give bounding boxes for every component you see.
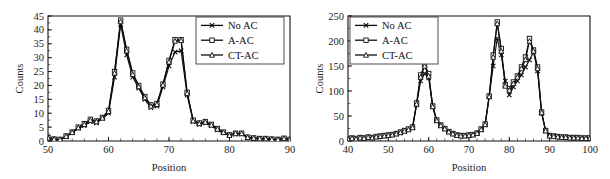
x-tick-label: 60 (423, 144, 434, 155)
y-tick-label: 0 (339, 136, 344, 147)
y-tick-label: 30 (34, 52, 45, 63)
x-tick-label: 70 (464, 144, 475, 155)
y-tick-label: 20 (34, 80, 45, 91)
x-tick-label: 80 (224, 144, 235, 155)
y-tick-label: 25 (34, 66, 45, 77)
y-tick-label: 35 (34, 38, 45, 49)
marker-square (210, 38, 214, 42)
y-tick-label: 250 (328, 11, 344, 22)
y-tick-label: 100 (328, 86, 344, 97)
x-tick-label: 90 (285, 144, 296, 155)
x-axis-title: Position (152, 162, 187, 173)
legend-label: A-AC (382, 35, 408, 46)
x-tick-label: 80 (504, 144, 515, 155)
legend-label: A-AC (228, 35, 254, 46)
x-tick-label: 90 (544, 144, 555, 155)
figure-container: 5060708090051015202530354045PositionCoun… (0, 0, 610, 179)
y-tick-label: 5 (39, 122, 44, 133)
x-tick-label: 50 (383, 144, 394, 155)
y-tick-label: 150 (328, 61, 344, 72)
chart-svg: 405060708090100050100150200250PositionCo… (305, 0, 610, 179)
chart-svg: 5060708090051015202530354045PositionCoun… (0, 0, 305, 179)
chart-panel-right: 405060708090100050100150200250PositionCo… (305, 0, 610, 179)
y-tick-label: 50 (334, 111, 345, 122)
x-tick-label: 70 (164, 144, 175, 155)
x-tick-label: 40 (343, 144, 354, 155)
y-tick-label: 200 (328, 36, 344, 47)
y-tick-label: 40 (34, 24, 45, 35)
legend-label: No AC (382, 20, 411, 31)
legend-label: CT-AC (382, 50, 413, 61)
x-axis-title: Position (452, 162, 487, 173)
y-tick-label: 10 (34, 108, 45, 119)
y-axis-title: Counts (14, 64, 25, 94)
y-tick-label: 45 (34, 11, 45, 22)
x-tick-label: 60 (103, 144, 114, 155)
y-tick-label: 0 (39, 136, 44, 147)
legend-label: No AC (228, 20, 257, 31)
y-axis-title: Counts (314, 64, 325, 94)
x-tick-label: 50 (43, 144, 54, 155)
chart-panel-left: 5060708090051015202530354045PositionCoun… (0, 0, 305, 179)
y-tick-label: 15 (34, 94, 45, 105)
legend-label: CT-AC (228, 50, 259, 61)
x-tick-label: 100 (582, 144, 598, 155)
marker-square (364, 38, 368, 42)
